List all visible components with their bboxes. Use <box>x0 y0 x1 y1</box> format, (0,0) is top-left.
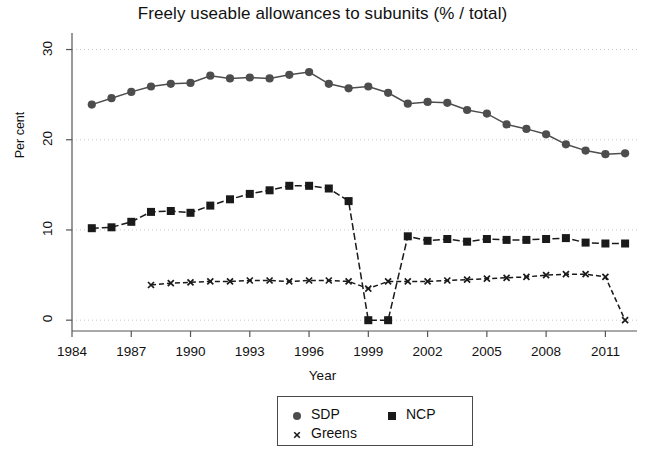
data-point-ncp <box>88 224 96 232</box>
chart-figure: Freely useable allowances to subunits (%… <box>0 0 645 455</box>
data-point-sdp <box>88 101 96 109</box>
data-point-ncp <box>621 240 629 248</box>
data-point-sdp <box>186 79 194 87</box>
data-point-ncp <box>463 238 471 246</box>
legend-marker-circle-icon <box>290 409 304 423</box>
data-point-sdp <box>305 68 313 76</box>
data-point-ncp <box>325 185 333 193</box>
data-point-ncp <box>246 190 254 198</box>
data-point-greens <box>602 274 608 280</box>
x-tick-label: 2002 <box>403 344 453 359</box>
data-point-ncp <box>601 240 609 248</box>
data-point-ncp <box>285 182 293 190</box>
data-point-sdp <box>147 82 155 90</box>
data-point-ncp <box>206 202 214 210</box>
data-point-ncp <box>127 218 135 226</box>
data-point-greens <box>622 317 628 323</box>
legend-marker-x-icon <box>290 428 304 442</box>
y-tick-label: 10 <box>40 215 55 241</box>
x-tick-label: 1996 <box>284 344 334 359</box>
y-tick-label: 30 <box>40 35 55 61</box>
data-point-ncp <box>562 234 570 242</box>
data-point-sdp <box>601 150 609 158</box>
data-point-sdp <box>503 120 511 128</box>
legend-label-sdp: SDP <box>311 406 340 422</box>
data-point-sdp <box>107 94 115 102</box>
data-point-sdp <box>246 73 254 81</box>
data-point-sdp <box>542 130 550 138</box>
data-point-ncp <box>187 209 195 217</box>
series-line-ncp <box>92 186 625 320</box>
data-point-ncp <box>108 223 116 231</box>
data-point-sdp <box>325 80 333 88</box>
data-point-ncp <box>424 237 432 245</box>
data-point-ncp <box>167 207 175 215</box>
x-tick-label: 1984 <box>47 344 97 359</box>
data-point-ncp <box>364 316 372 324</box>
data-point-ncp <box>542 235 550 243</box>
data-point-sdp <box>285 71 293 79</box>
x-tick-label: 2005 <box>462 344 512 359</box>
data-point-ncp <box>226 195 234 203</box>
data-point-sdp <box>483 110 491 118</box>
data-point-sdp <box>345 84 353 92</box>
data-point-sdp <box>463 106 471 114</box>
legend-label-ncp: NCP <box>406 406 436 422</box>
x-tick-label: 1999 <box>343 344 393 359</box>
data-point-ncp <box>305 182 313 190</box>
data-point-ncp <box>266 186 274 194</box>
data-point-ncp <box>147 208 155 216</box>
legend-marker-square-icon <box>385 409 399 423</box>
data-point-ncp <box>503 236 511 244</box>
y-tick-label: 0 <box>40 306 55 332</box>
data-point-ncp <box>443 235 451 243</box>
data-point-sdp <box>443 99 451 107</box>
data-point-sdp <box>621 149 629 157</box>
data-point-sdp <box>404 100 412 108</box>
x-tick-label: 1987 <box>106 344 156 359</box>
y-tick-label: 20 <box>40 125 55 151</box>
data-point-sdp <box>167 80 175 88</box>
data-point-ncp <box>483 235 491 243</box>
x-tick-label: 1990 <box>166 344 216 359</box>
x-tick-label: 2008 <box>521 344 571 359</box>
data-point-sdp <box>226 74 234 82</box>
x-tick-label: 2011 <box>580 344 630 359</box>
data-point-ncp <box>522 236 530 244</box>
data-point-sdp <box>424 98 432 106</box>
data-point-sdp <box>582 147 590 155</box>
x-tick-label: 1993 <box>225 344 275 359</box>
legend-label-greens: Greens <box>311 425 357 441</box>
data-point-sdp <box>562 140 570 148</box>
data-point-sdp <box>522 125 530 133</box>
data-point-ncp <box>384 316 392 324</box>
plot-area <box>0 0 645 455</box>
data-point-ncp <box>404 232 412 240</box>
chart-legend: SDP NCP Greens <box>277 396 473 446</box>
data-point-sdp <box>127 88 135 96</box>
data-point-sdp <box>206 72 214 80</box>
data-point-sdp <box>364 82 372 90</box>
data-point-sdp <box>266 74 274 82</box>
data-point-ncp <box>345 197 353 205</box>
data-point-sdp <box>384 89 392 97</box>
data-point-ncp <box>582 239 590 247</box>
